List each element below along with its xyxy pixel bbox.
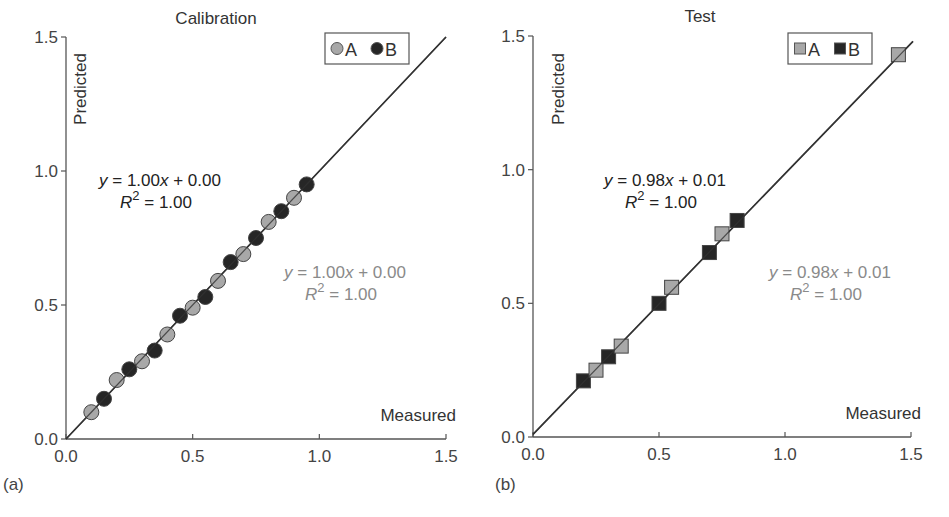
equation-series-a: y = 1.00x + 0.00R2 = 1.00: [283, 263, 406, 304]
panel-b: 0.00.51.01.50.00.51.01.5TestABPredictedM…: [495, 7, 923, 494]
equation-line: y = 0.98x + 0.01: [603, 171, 726, 190]
data-point-a: [665, 280, 679, 294]
y-tick-label: 1.0: [501, 161, 525, 180]
panel-label: (a): [3, 475, 24, 494]
figure: 0.00.51.01.50.00.51.01.5CalibrationABPre…: [0, 0, 949, 517]
regression-line-overlay: [66, 37, 446, 439]
equation-series-b: y = 1.00x + 0.00R2 = 1.00: [98, 171, 221, 212]
equation-line: y = 1.00x + 0.00: [98, 171, 221, 190]
x-tick-label: 0.5: [181, 447, 205, 466]
legend: AB: [788, 33, 872, 64]
legend-marker-a: [795, 43, 806, 54]
regression-line-overlay: [533, 41, 913, 434]
x-tick-label: 1.5: [434, 447, 458, 466]
data-point-a: [236, 247, 251, 262]
x-tick-label: 1.0: [773, 445, 797, 464]
y-tick-label: 1.5: [501, 27, 525, 46]
y-axis-title: Predicted: [71, 53, 90, 125]
legend-label: B: [385, 40, 397, 60]
panel-label: (b): [495, 475, 516, 494]
x-tick-label: 0.0: [54, 447, 78, 466]
legend-label: A: [345, 40, 357, 60]
x-tick-label: 1.0: [308, 447, 332, 466]
equation-series-a: y = 0.98x + 0.01R2 = 1.00: [768, 263, 891, 304]
r-squared-line: R2 = 1.00: [790, 280, 862, 304]
panel-a: 0.00.51.01.50.00.51.01.5CalibrationABPre…: [3, 9, 458, 494]
chart-title: Test: [684, 7, 715, 26]
data-point-a: [891, 48, 905, 62]
r-squared-line: R2 = 1.00: [305, 280, 377, 304]
legend-label: B: [848, 40, 860, 60]
chart-canvas: 0.00.51.01.50.00.51.01.5CalibrationABPre…: [0, 0, 949, 517]
legend-marker-a: [331, 43, 343, 55]
r-squared-line: R2 = 1.00: [625, 188, 697, 212]
data-point-b: [730, 213, 744, 227]
data-point-a: [185, 300, 200, 315]
r-squared-line: R2 = 1.00: [120, 188, 192, 212]
y-tick-label: 1.5: [34, 28, 58, 47]
y-tick-label: 0.5: [34, 296, 58, 315]
x-axis-title: Measured: [845, 404, 921, 423]
chart-title: Calibration: [175, 9, 256, 28]
y-tick-label: 0.5: [501, 294, 525, 313]
equation-series-b: y = 0.98x + 0.01R2 = 1.00: [603, 171, 726, 212]
data-point-a: [614, 339, 628, 353]
y-axis-title: Predicted: [549, 53, 568, 125]
legend-marker-b: [371, 43, 383, 55]
data-point-b: [576, 374, 590, 388]
data-point-a: [211, 273, 226, 288]
x-tick-label: 0.5: [647, 445, 671, 464]
y-tick-label: 0.0: [501, 428, 525, 447]
equation-line: y = 1.00x + 0.00: [283, 263, 406, 282]
x-tick-label: 0.0: [521, 445, 545, 464]
equation-line: y = 0.98x + 0.01: [768, 263, 891, 282]
x-axis-title: Measured: [380, 406, 456, 425]
legend-label: A: [808, 40, 820, 60]
data-point-a: [135, 354, 150, 369]
x-tick-label: 1.5: [899, 445, 923, 464]
legend-marker-b: [835, 43, 846, 54]
data-point-a: [261, 214, 276, 229]
y-tick-label: 1.0: [34, 162, 58, 181]
y-tick-label: 0.0: [34, 430, 58, 449]
legend: AB: [325, 33, 409, 64]
data-point-a: [160, 327, 175, 342]
